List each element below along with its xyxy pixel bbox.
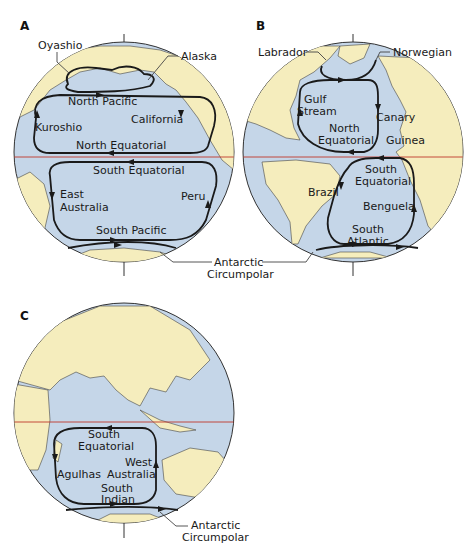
panel-c-indian: C South Equatori <box>0 303 469 544</box>
label-california: California <box>131 113 183 126</box>
ocean-currents-diagram: A Oyashio Ala <box>0 0 469 558</box>
label-kuroshio: Kuroshio <box>35 121 82 134</box>
leader-antarctic-a <box>160 252 212 262</box>
label-south-equatorial-2: Equatorial <box>355 175 411 188</box>
leader-antarctic-b <box>262 252 313 262</box>
label-south-equatorial: South Equatorial <box>93 164 185 177</box>
label-alaska: Alaska <box>181 50 217 63</box>
label-peru: Peru <box>181 190 206 203</box>
panel-c-label: C <box>20 309 29 323</box>
label-south-atlantic-2: Atlantic <box>347 235 389 248</box>
label-north-pacific: North Pacific <box>68 95 137 108</box>
label-west-australia-2: Australia <box>107 468 156 481</box>
label-north-equatorial: North Equatorial <box>76 139 166 152</box>
panel-a-label: A <box>20 19 30 33</box>
label-brazil: Brazil <box>308 186 339 199</box>
shared-antarctic-label: Antarctic Circumpolar <box>160 252 313 281</box>
label-norwegian: Norwegian <box>393 46 452 59</box>
label-south-equatorial-2: Equatorial <box>78 440 134 453</box>
label-benguela: Benguela <box>363 200 415 213</box>
label-antarctic-shared-2: Circumpolar <box>207 268 274 281</box>
label-guinea: Guinea <box>386 134 425 147</box>
label-east-australia-2: Australia <box>60 201 109 214</box>
label-gulf-stream-2: Stream <box>297 105 337 118</box>
label-agulhas: Agulhas <box>57 468 101 481</box>
label-antarctic-c-2: Circumpolar <box>182 531 249 544</box>
label-south-indian-2: Indian <box>101 493 135 506</box>
label-north-equatorial-2: Equatorial <box>318 134 374 147</box>
panel-b-label: B <box>256 19 265 33</box>
label-south-pacific: South Pacific <box>96 224 166 237</box>
label-east-australia-1: East <box>60 188 84 201</box>
label-labrador: Labrador <box>258 46 308 59</box>
label-oyashio: Oyashio <box>38 39 83 52</box>
label-canary: Canary <box>376 111 416 124</box>
